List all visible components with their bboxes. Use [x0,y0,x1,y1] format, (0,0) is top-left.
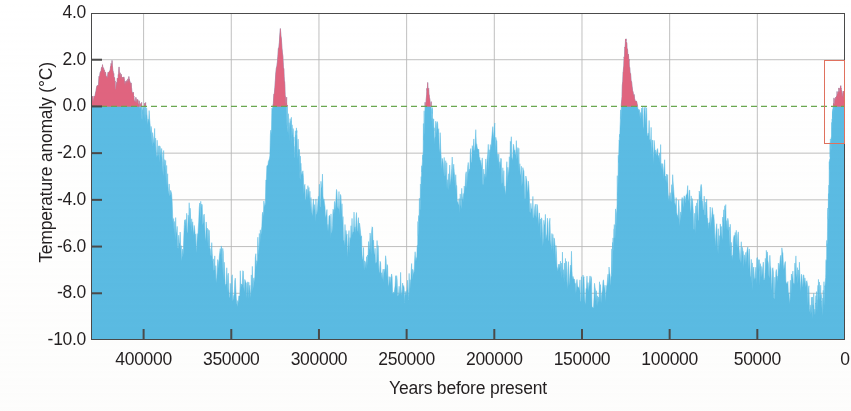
temperature-anomaly-chart: Temperature anomaly (°C) 4.02.00.0-2.0-4… [0,0,851,411]
x-tick-label: 200000 [466,351,523,369]
x-axis-title: Years before present [91,378,845,399]
x-tick-label: 50000 [734,351,781,369]
x-tick-label: 350000 [203,351,260,369]
x-tick-label: 250000 [378,351,435,369]
x-axis-tick-labels: 4000003500003000002500002000001500001000… [0,0,851,411]
x-tick-label: 100000 [641,351,698,369]
x-tick-label: 0 [840,351,849,369]
x-tick-label: 400000 [115,351,172,369]
x-tick-label: 150000 [554,351,611,369]
x-tick-label: 300000 [291,351,348,369]
